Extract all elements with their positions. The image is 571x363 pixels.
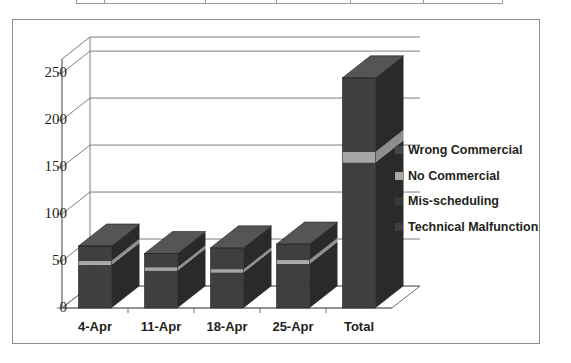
legend-item-label: No Commercial (408, 170, 500, 183)
legend-item-mis-scheduling[interactable]: Mis-scheduling (395, 195, 545, 208)
chart-legend: Wrong Commercial No Commercial Mis-sched… (395, 144, 545, 246)
legend-item-label: Wrong Commercial (408, 144, 522, 157)
legend-swatch-icon (395, 146, 403, 154)
legend-swatch-icon (395, 172, 403, 180)
table-fragment-cell (424, 0, 502, 3)
legend-item-technical-malfunction[interactable]: Technical Malfunction (395, 221, 545, 234)
x-axis: 4-Apr11-Apr18-Apr25-AprTotal (13, 316, 539, 338)
table-fragment-cell (277, 0, 351, 3)
table-fragment-cell (351, 0, 425, 3)
legend-swatch-icon (395, 197, 403, 205)
x-axis-tick-label: Total (319, 320, 399, 333)
y-axis-tick-label: 250 (21, 65, 67, 80)
bar-group (211, 226, 272, 308)
legend-item-label: Technical Malfunction (408, 221, 538, 234)
table-fragment-cell (206, 0, 277, 3)
y-axis-tick-label: 0 (21, 300, 67, 315)
y-axis-tick-label: 150 (21, 159, 67, 174)
legend-item-wrong-commercial[interactable]: Wrong Commercial (395, 144, 545, 157)
chart-container: 050100150200250 4-Apr11-Apr18-Apr25-AprT… (12, 19, 540, 344)
bar-group (79, 224, 140, 308)
table-fragment-cell (105, 0, 207, 3)
y-axis-tick-label: 50 (21, 253, 67, 268)
bar-group (277, 222, 338, 308)
table-fragment-cell (77, 0, 105, 3)
cropped-table-fragment (76, 0, 503, 4)
bar-group (145, 232, 206, 308)
legend-item-no-commercial[interactable]: No Commercial (395, 170, 545, 183)
legend-swatch-icon (395, 223, 403, 231)
legend-item-label: Mis-scheduling (408, 195, 499, 208)
y-axis: 050100150200250 (21, 20, 67, 343)
y-axis-tick-label: 200 (21, 112, 67, 127)
y-axis-tick-label: 100 (21, 206, 67, 221)
